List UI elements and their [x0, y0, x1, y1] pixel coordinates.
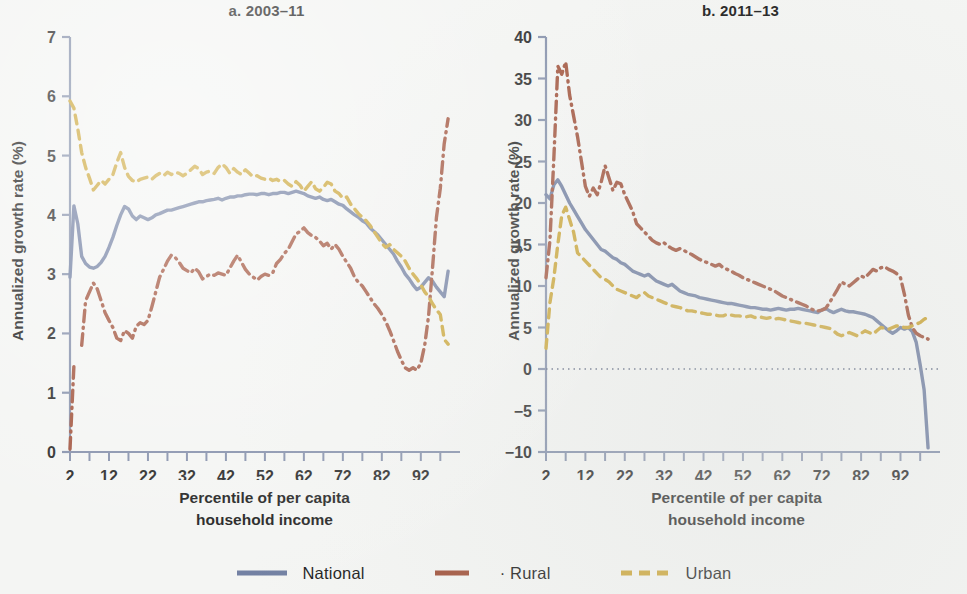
- panel-a-plot: 012345672122232425262728292: [0, 0, 483, 480]
- svg-text:3: 3: [47, 266, 56, 283]
- legend-item-rural: · Rural: [433, 564, 551, 583]
- svg-text:12: 12: [100, 468, 118, 480]
- panel-a-x-axis-label: Percentile of per capita household incom…: [0, 487, 483, 531]
- svg-text:2: 2: [47, 325, 56, 342]
- panel-a-x-axis-label-line2: household income: [196, 511, 333, 528]
- panel-b-plot: −10−505101520253035402122232425262728292: [484, 0, 967, 480]
- svg-text:−5: −5: [514, 403, 532, 420]
- legend-swatch-national-icon: [235, 568, 291, 578]
- svg-text:62: 62: [295, 468, 313, 480]
- legend-item-urban: Urban: [619, 564, 732, 583]
- panel-a-y-axis-label: Annualized growth rate (%): [9, 111, 27, 371]
- svg-text:6: 6: [47, 88, 56, 105]
- svg-text:5: 5: [47, 148, 56, 165]
- panel-b-title: b. 2011–13: [484, 2, 967, 19]
- svg-text:52: 52: [734, 468, 752, 480]
- svg-text:5: 5: [523, 320, 532, 337]
- panel-b: b. 2011–13 Annualized growth rate (%) −1…: [484, 0, 967, 552]
- svg-text:35: 35: [514, 71, 532, 88]
- chart-legend: National · Rural Urban: [0, 552, 967, 594]
- svg-text:52: 52: [256, 468, 274, 480]
- panel-b-x-axis-label-line2: household income: [668, 511, 805, 528]
- panel-a: a. 2003–11 Annualized growth rate (%) 01…: [0, 0, 483, 552]
- svg-text:1: 1: [47, 385, 56, 402]
- svg-text:4: 4: [47, 207, 56, 224]
- svg-text:12: 12: [576, 468, 594, 480]
- svg-text:92: 92: [892, 468, 910, 480]
- svg-text:32: 32: [655, 468, 673, 480]
- svg-text:22: 22: [139, 468, 157, 480]
- legend-label-national: National: [302, 564, 364, 583]
- svg-text:7: 7: [47, 29, 56, 46]
- svg-text:2: 2: [66, 468, 75, 480]
- panel-a-title: a. 2003–11: [0, 2, 483, 19]
- svg-text:0: 0: [47, 444, 56, 461]
- svg-text:32: 32: [178, 468, 196, 480]
- svg-text:92: 92: [412, 468, 430, 480]
- legend-swatch-rural-icon: [433, 568, 489, 578]
- svg-text:42: 42: [217, 468, 235, 480]
- legend-label-urban: Urban: [686, 564, 732, 583]
- panel-b-x-axis-label-line1: Percentile of per capita: [651, 489, 822, 506]
- svg-text:40: 40: [514, 29, 532, 46]
- panel-a-x-axis-label-line1: Percentile of per capita: [179, 489, 350, 506]
- svg-text:72: 72: [813, 468, 831, 480]
- svg-text:−10: −10: [505, 444, 532, 461]
- svg-text:82: 82: [373, 468, 391, 480]
- svg-text:42: 42: [695, 468, 713, 480]
- figure-root: a. 2003–11 Annualized growth rate (%) 01…: [0, 0, 967, 594]
- svg-text:2: 2: [542, 468, 551, 480]
- svg-text:82: 82: [852, 468, 870, 480]
- svg-text:72: 72: [334, 468, 352, 480]
- panel-b-y-axis-label: Annualized growth rate (%): [505, 111, 523, 371]
- svg-text:22: 22: [616, 468, 634, 480]
- svg-text:62: 62: [773, 468, 791, 480]
- legend-swatch-urban-icon: [619, 568, 675, 578]
- legend-item-national: National: [235, 564, 364, 583]
- legend-label-rural: · Rural: [500, 564, 551, 583]
- svg-text:0: 0: [523, 361, 532, 378]
- panel-b-x-axis-label: Percentile of per capita household incom…: [484, 487, 967, 531]
